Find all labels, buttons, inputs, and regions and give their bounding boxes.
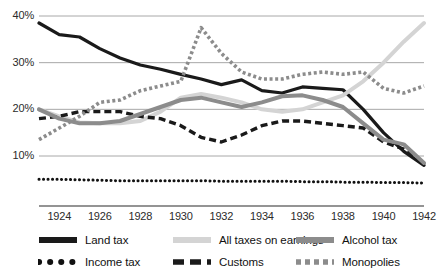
x-tick-label: 1934 <box>242 210 282 222</box>
y-tick-label: 40% <box>0 9 34 21</box>
gridlines <box>39 16 424 156</box>
legend-item-land-tax[interactable]: Land tax <box>38 231 128 249</box>
x-tick-label: 1928 <box>120 210 160 222</box>
legend-item-customs[interactable]: Customs <box>172 253 264 271</box>
x-tick-label: 1942 <box>404 210 441 222</box>
legend-swatch-icon <box>172 232 212 248</box>
series-line-customs <box>39 112 424 163</box>
legend-item-alcohol-tax[interactable]: Alcohol tax <box>295 231 397 249</box>
legend-label: Alcohol tax <box>342 234 397 246</box>
series-line-land-tax <box>39 23 424 165</box>
x-tick-label: 1926 <box>80 210 120 222</box>
legend-swatch-icon <box>38 254 78 270</box>
legend-label: Customs <box>219 256 264 268</box>
x-tick-label: 1936 <box>282 210 322 222</box>
series-lines <box>39 23 424 183</box>
legend-swatch-icon <box>172 254 212 270</box>
series-line-income-tax <box>39 179 424 183</box>
legend-label: Income tax <box>85 256 140 268</box>
legend-label: Land tax <box>85 234 128 246</box>
legend-label: Monopolies <box>342 256 400 268</box>
x-tick-label: 1924 <box>39 210 79 222</box>
x-tick-label: 1938 <box>323 210 363 222</box>
y-tick-label: 10% <box>0 149 34 161</box>
legend-swatch-icon <box>38 232 78 248</box>
y-tick-label: 20% <box>0 102 34 114</box>
legend-item-income-tax[interactable]: Income tax <box>38 253 140 271</box>
chart-legend: Land taxAll taxes on earningsAlcohol tax… <box>0 231 426 275</box>
y-tick-label: 30% <box>0 56 34 68</box>
legend-item-monopolies[interactable]: Monopolies <box>295 253 400 271</box>
x-tick-label: 1932 <box>201 210 241 222</box>
legend-swatch-icon <box>295 254 335 270</box>
series-line-alcohol-tax <box>39 95 424 163</box>
x-tick-label: 1930 <box>161 210 201 222</box>
x-tick-label: 1940 <box>363 210 403 222</box>
legend-swatch-icon <box>295 232 335 248</box>
